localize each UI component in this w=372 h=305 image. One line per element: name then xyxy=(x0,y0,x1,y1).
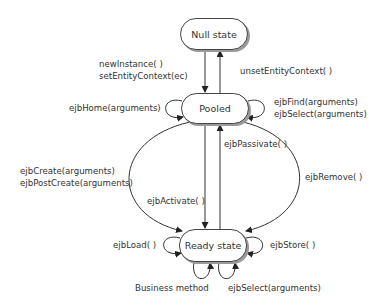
label-new-instance: newInstance( ) xyxy=(99,58,163,70)
label-ejb-remove: ejbRemove( ) xyxy=(305,171,362,183)
label-ejb-find: ejbFind(arguments) xyxy=(274,96,358,108)
label-unset-entity-context: unsetEntityContext( ) xyxy=(240,65,332,77)
label-ejb-select-pooled: ejbSelect(arguments) xyxy=(274,108,367,120)
arrow-ready-self-right xyxy=(246,237,263,254)
label-ejb-activate: ejbActivate( ) xyxy=(147,195,205,207)
state-null: Null state xyxy=(180,18,248,50)
label-ejb-create: ejbCreate(arguments) xyxy=(20,165,115,177)
label-business-method: Business method xyxy=(135,282,209,294)
arrow-pooled-self-right xyxy=(247,100,264,117)
state-ready-label: Ready state xyxy=(185,240,242,251)
label-ejb-load: ejbLoad( ) xyxy=(113,239,156,251)
arrow-ready-self-select xyxy=(219,262,236,279)
label-ejb-passivate: ejbPassivate( ) xyxy=(224,138,287,150)
state-pooled: Pooled xyxy=(181,93,249,124)
label-ejb-post-create: ejbPostCreate(arguments) xyxy=(20,177,133,189)
arrow-ready-self-business xyxy=(194,262,211,279)
arrow-pooled-to-ready-create xyxy=(129,122,190,231)
label-ejb-home: ejbHome(arguments) xyxy=(69,102,161,114)
label-ejb-store: ejbStore( ) xyxy=(270,239,315,251)
label-set-entity-context: setEntityContext(ec) xyxy=(99,70,188,82)
state-pooled-label: Pooled xyxy=(199,103,231,114)
label-ejb-select-ready: ejbSelect(arguments) xyxy=(228,282,321,294)
state-ready: Ready state xyxy=(179,229,247,262)
state-null-label: Null state xyxy=(191,29,237,40)
